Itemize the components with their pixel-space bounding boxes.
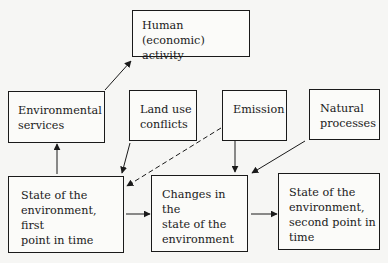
arrow-natural-to-changes: [252, 141, 305, 173]
node-state-first: State of the environment, first point in…: [8, 176, 124, 253]
node-human-activity: Human (economic) activity: [132, 10, 250, 57]
arrow-landuse-to-state1: [122, 143, 130, 173]
arrow-env-to-human: [105, 61, 131, 90]
node-changes: Changes in the state of the environment: [151, 175, 248, 252]
node-natural-processes: Natural processes: [309, 89, 380, 140]
node-land-use-conflicts: Land use conflicts: [129, 90, 197, 141]
node-emission: Emission: [222, 90, 287, 141]
node-environmental-services: Environmental services: [8, 91, 105, 143]
node-state-second: State of the environment, second point i…: [278, 173, 380, 250]
